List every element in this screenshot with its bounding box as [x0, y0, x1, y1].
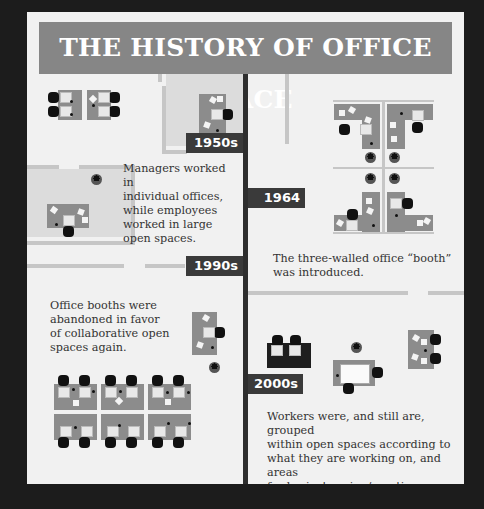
- chair-icon: [105, 375, 116, 386]
- infographic-panel: THE HISTORY OF OFFICE SPACE: [27, 12, 464, 484]
- chair-icon: [343, 383, 354, 394]
- chair-icon: [339, 124, 350, 135]
- chair-icon: [48, 106, 59, 117]
- plant-icon: [389, 173, 400, 184]
- chair-icon: [173, 375, 184, 386]
- chair-icon: [58, 437, 69, 448]
- description-1950s: Managers worked in individual offices, w…: [123, 162, 233, 246]
- plant-icon: [209, 362, 220, 373]
- chair-icon: [109, 92, 120, 103]
- chair-icon: [430, 353, 441, 364]
- chair-icon: [126, 375, 137, 386]
- plant-icon: [365, 173, 376, 184]
- chair-icon: [222, 109, 233, 120]
- chair-icon: [430, 334, 441, 345]
- chair-icon: [347, 209, 358, 220]
- chair-icon: [152, 437, 163, 448]
- chair-icon: [402, 198, 413, 209]
- era-label-1950s: 1950s: [186, 133, 243, 153]
- chair-icon: [63, 226, 74, 237]
- chair-icon: [214, 327, 225, 338]
- chair-icon: [48, 92, 59, 103]
- plant-icon: [365, 152, 376, 163]
- chair-icon: [126, 437, 137, 448]
- description-2000s: Workers were, and still are, grouped wit…: [267, 410, 462, 484]
- chair-icon: [152, 375, 163, 386]
- description-1964: The three-walled office “booth” was intr…: [273, 252, 463, 280]
- plant-icon: [389, 152, 400, 163]
- chair-icon: [79, 437, 90, 448]
- chair-icon: [105, 437, 116, 448]
- description-1990s: Office booths were abandoned in favor of…: [50, 299, 180, 355]
- era-label-1990s: 1990s: [186, 256, 243, 276]
- era-label-2000s: 2000s: [248, 374, 303, 394]
- chair-icon: [109, 106, 120, 117]
- plant-icon: [91, 174, 102, 185]
- whiteboard: [340, 364, 370, 384]
- chair-icon: [372, 367, 383, 378]
- timeline-line: [243, 74, 248, 484]
- plant-icon: [351, 342, 362, 353]
- chair-icon: [58, 375, 69, 386]
- page-title: THE HISTORY OF OFFICE SPACE: [39, 22, 452, 74]
- chair-icon: [412, 122, 423, 133]
- chair-icon: [173, 437, 184, 448]
- chair-icon: [79, 375, 90, 386]
- era-label-1964: 1964: [248, 188, 305, 208]
